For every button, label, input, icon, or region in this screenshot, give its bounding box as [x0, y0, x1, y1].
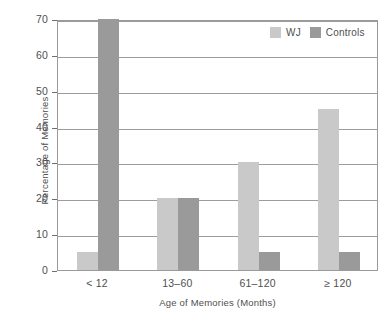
- y-tick-mark: [52, 271, 57, 272]
- bar-controls-2: [259, 252, 280, 270]
- y-tick-label: 30: [8, 156, 48, 168]
- bar-wj-3: [318, 109, 339, 270]
- legend-label-wj: WJ: [286, 27, 301, 38]
- y-tick-label: 40: [8, 121, 48, 133]
- bar-wj-1: [157, 198, 178, 270]
- x-tick-label: ≥ 120: [293, 277, 383, 289]
- bar-controls-3: [339, 252, 360, 270]
- legend-swatch-controls: [310, 27, 321, 38]
- bar-wj-0: [77, 252, 98, 270]
- bar-chart: Percentage of Memories 010203040506070 <…: [0, 0, 392, 321]
- y-tick-label: 70: [8, 13, 48, 25]
- x-tick-label: < 12: [52, 277, 142, 289]
- x-tick-label: 13–60: [132, 277, 222, 289]
- bar-controls-0: [98, 19, 119, 270]
- y-tick-label: 0: [8, 264, 48, 276]
- legend-swatch-wj: [270, 27, 281, 38]
- plot-area: [57, 20, 378, 271]
- x-axis-title: Age of Memories (Months): [57, 297, 378, 308]
- bar-controls-1: [178, 198, 199, 270]
- y-tick-label: 10: [8, 228, 48, 240]
- legend: WJ Controls: [270, 27, 365, 38]
- y-tick-label: 50: [8, 85, 48, 97]
- x-tick-label: 61–120: [213, 277, 303, 289]
- y-tick-label: 20: [8, 192, 48, 204]
- legend-item-wj: WJ: [270, 27, 301, 38]
- bar-wj-2: [238, 162, 259, 270]
- y-tick-label: 60: [8, 49, 48, 61]
- legend-item-controls: Controls: [310, 27, 365, 38]
- legend-label-controls: Controls: [326, 27, 365, 38]
